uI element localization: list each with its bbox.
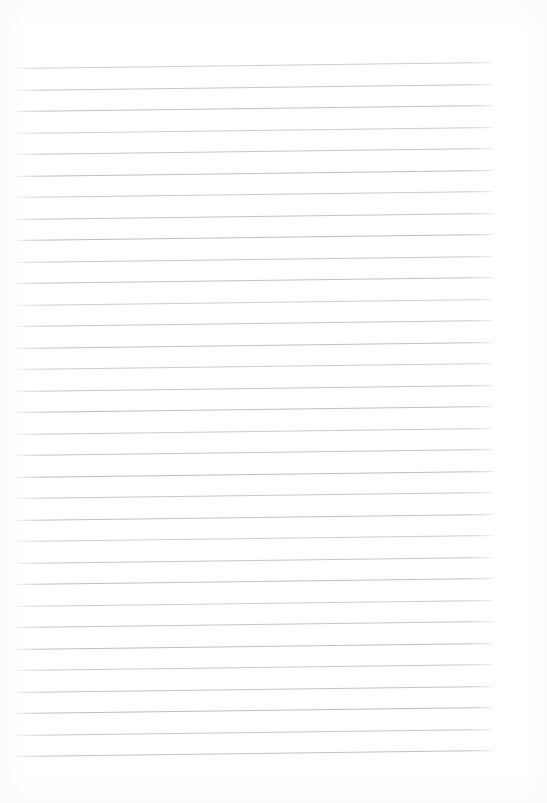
ruled-line	[15, 277, 493, 284]
ruled-line	[15, 621, 493, 628]
ruled-line	[15, 320, 493, 327]
ruled-line	[15, 427, 493, 434]
ruled-line	[15, 384, 493, 391]
ruled-line	[15, 363, 493, 370]
ruled-line	[15, 83, 493, 90]
ruled-line	[15, 642, 493, 649]
ruled-line	[15, 406, 493, 413]
ruled-line	[15, 556, 493, 563]
ruled-line	[15, 126, 493, 133]
ruled-line	[15, 191, 493, 198]
ruled-line	[15, 664, 493, 671]
ruled-line	[15, 599, 493, 606]
ruled-line	[15, 105, 493, 112]
ruled-line	[15, 707, 493, 714]
scanned-page	[0, 0, 547, 803]
ruled-line	[15, 255, 493, 262]
ruled-line	[15, 148, 493, 155]
ruled-line	[15, 234, 493, 241]
ruled-line	[15, 513, 493, 520]
ruled-line	[15, 750, 493, 757]
ruled-line	[15, 449, 493, 456]
ruled-line	[15, 535, 493, 542]
ruled-line	[15, 492, 493, 499]
ruled-line	[15, 169, 493, 176]
ruled-line	[15, 470, 493, 477]
ruled-line	[15, 685, 493, 692]
ruled-line	[15, 62, 493, 69]
ruled-line	[15, 578, 493, 585]
ruled-line	[15, 298, 493, 305]
ruled-line	[15, 212, 493, 219]
ruled-line	[15, 341, 493, 348]
ruled-line	[15, 728, 493, 735]
ruled-line-group	[0, 0, 547, 803]
